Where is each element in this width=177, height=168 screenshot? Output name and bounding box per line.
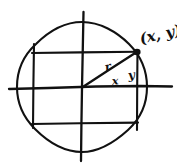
rectangle-bottom-edge (32, 123, 138, 124)
rectangle-top-edge (32, 52, 137, 53)
vertical-leg-label: y (126, 67, 137, 82)
point-label: (x, y) (138, 21, 177, 48)
horizontal-leg-label: x (110, 74, 119, 88)
geometry-diagram: (x, y) r x y (0, 0, 177, 168)
rectangle-left-edge (33, 44, 34, 128)
diagram-canvas: (x, y) r x y (0, 0, 177, 168)
rectangle-right-edge (137, 51, 138, 130)
point-marker (133, 49, 140, 55)
